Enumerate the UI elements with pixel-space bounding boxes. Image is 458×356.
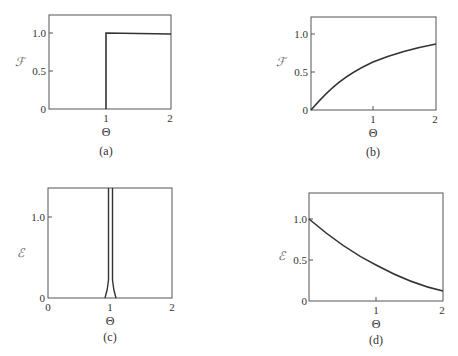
panel-d: 1.0 0.5 0 1 2 ℰ Θ (d): [278, 193, 445, 347]
ytick-0: 0: [302, 295, 308, 307]
cumulative-curve: [311, 44, 436, 110]
ytick-1.0: 1.0: [294, 28, 308, 40]
panel-c: 1.0 0 0 1 2 ℰ Θ (c): [17, 188, 175, 344]
xtick-1: 1: [103, 112, 109, 124]
panel-a: 1.0 0.5 0 1 2 ℱ Θ (a): [15, 15, 173, 158]
x-axis-label: Θ: [106, 314, 115, 328]
xtick-2: 2: [169, 301, 175, 313]
impulse-curve-right: [113, 188, 117, 298]
plot-frame: [48, 188, 172, 298]
ytick-0.5: 0.5: [294, 66, 308, 78]
y-axis-label: ℰ: [17, 246, 26, 260]
xtick-1: 1: [373, 304, 379, 316]
x-axis-label: Θ: [372, 317, 381, 331]
step-curve: [106, 33, 171, 109]
exponential-decay-curve: [309, 219, 443, 291]
impulse-curve-left: [105, 188, 109, 298]
ytick-0.5: 0.5: [293, 254, 307, 266]
xtick-2: 2: [167, 112, 173, 124]
plot-frame: [311, 17, 436, 110]
panel-b: 1.0 0.5 0 1 2 ℱ Θ (b): [276, 17, 438, 159]
y-axis-label: ℱ: [276, 55, 288, 69]
xtick-2: 2: [439, 304, 445, 316]
plot-frame: [49, 15, 171, 109]
xtick-0: 0: [45, 301, 51, 313]
ytick-0.5: 0.5: [32, 65, 46, 77]
panel-caption: (c): [103, 330, 116, 344]
x-axis-label: Θ: [369, 126, 378, 140]
panel-caption: (b): [366, 145, 380, 159]
ytick-1.0: 1.0: [32, 27, 46, 39]
ytick-1.0: 1.0: [293, 213, 307, 225]
y-axis-label: ℱ: [15, 55, 27, 69]
ytick-0: 0: [303, 104, 309, 116]
x-axis-label: Θ: [102, 125, 111, 139]
ytick-0: 0: [41, 103, 47, 115]
xtick-1: 1: [370, 113, 376, 125]
panel-caption: (a): [99, 144, 112, 158]
ytick-1.0: 1.0: [31, 211, 45, 223]
y-axis-label: ℰ: [278, 249, 287, 263]
xtick-1: 1: [107, 301, 113, 313]
xtick-2: 2: [432, 113, 438, 125]
panel-caption: (d): [369, 333, 383, 347]
figure: 1.0 0.5 0 1 2 ℱ Θ (a) 1.0 0.5 0 1 2 ℱ Θ …: [0, 0, 458, 356]
